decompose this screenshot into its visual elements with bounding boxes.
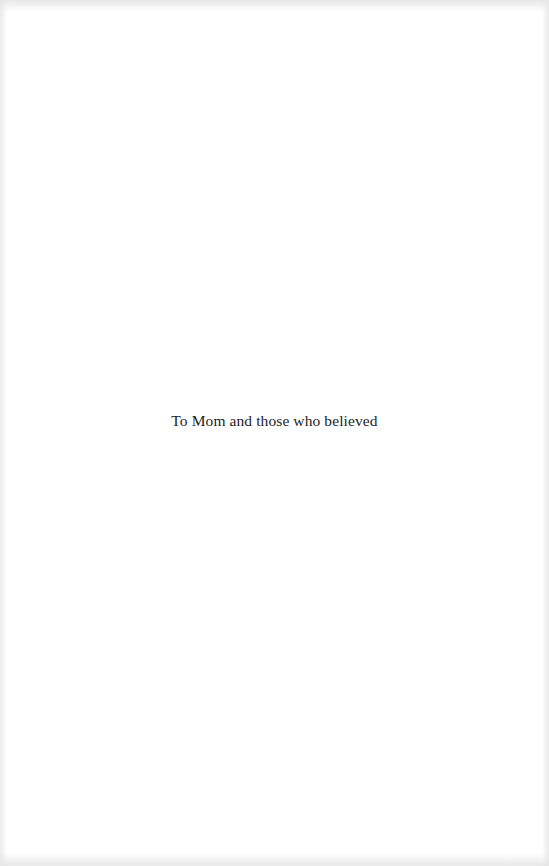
scan-edge-right (543, 0, 549, 866)
book-page: To Mom and those who believed (0, 0, 549, 866)
scan-edge-left (0, 0, 6, 866)
scan-edge-top (0, 0, 549, 12)
scan-edge-bottom (0, 852, 549, 866)
dedication-text: To Mom and those who believed (0, 411, 549, 431)
